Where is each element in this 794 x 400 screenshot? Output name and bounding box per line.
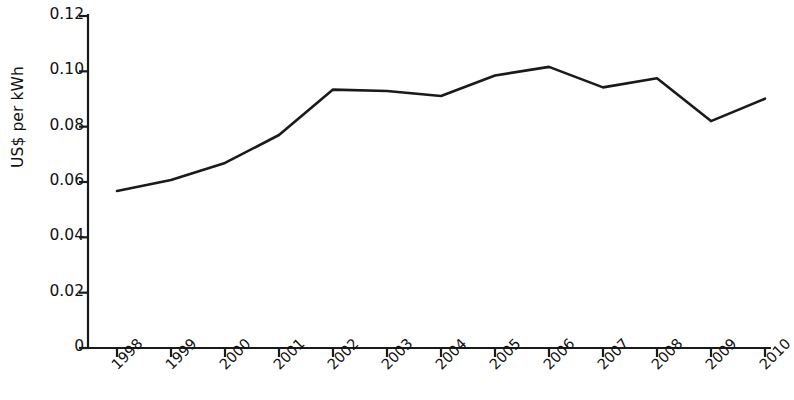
data-series-line — [117, 67, 765, 191]
y-axis — [79, 14, 89, 348]
